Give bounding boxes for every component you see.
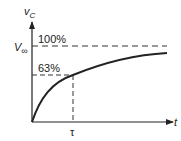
label-63-percent: 63% <box>38 62 60 74</box>
y-axis-label: vC <box>24 5 36 20</box>
v-infinity-label: V∞ <box>14 41 28 56</box>
label-100-percent: 100% <box>38 33 66 45</box>
tau-label: τ <box>70 126 75 138</box>
x-axis-label: t <box>174 116 178 128</box>
charging-curve-diagram: vC V∞ 100% 63% τ t <box>0 0 181 141</box>
